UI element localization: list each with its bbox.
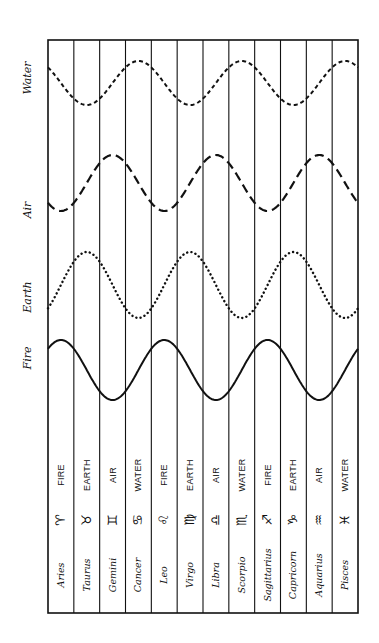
sign-element-text: AIR [314,467,324,483]
sign-name-text: Capricorn [287,551,298,599]
sign-element-text: EARTH [82,459,92,491]
sign-name-text: Gemini [107,558,118,592]
element-labels: WaterAirEarthFire [21,61,34,371]
sign-name-text: Sagittarius [262,548,273,601]
taurus-glyph-icon: ♉ [79,514,94,526]
fire-label: Fire [21,346,34,370]
capricorn-glyph-icon: ♑ [285,514,300,526]
sign-cell-pisces: WATER♓Pisces [337,458,352,591]
sign-name-text: Aries [55,562,66,588]
sagittarius-glyph-icon: ♐ [260,514,275,526]
leo-glyph-icon: ♌ [156,514,171,526]
sign-name-text: Scorpio [236,556,247,593]
sign-name-text: Taurus [81,558,92,591]
sign-cell-cancer: WATER♋Cancer [130,458,145,592]
sign-name-text: Cancer [132,556,143,592]
sign-cell-gemini: AIR♊Gemini [105,467,120,592]
sign-cell-libra: AIR♎Libra [208,467,223,589]
sign-cell-scorpio: WATER♏Scorpio [234,458,249,593]
virgo-glyph-icon: ♍ [182,514,197,526]
sign-cell-aquarius: AIR♒Aquarius [311,467,326,598]
cancer-glyph-icon: ♋ [130,514,145,526]
elements-wave-diagram: WaterAirEarthFire FIRE♈AriesEARTH♉Taurus… [0,0,379,643]
sign-element-text: AIR [211,467,221,483]
sign-element-text: FIRE [159,464,169,486]
sign-element-text: WATER [340,458,350,491]
sign-cell-virgo: EARTH♍Virgo [182,459,197,588]
sign-element-text: WATER [237,458,247,491]
pisces-glyph-icon: ♓ [337,514,352,526]
sign-name-text: Virgo [184,562,195,588]
sign-element-text: EARTH [185,459,195,491]
water-label: Water [21,61,34,95]
sign-name-text: Libra [210,562,221,589]
scorpio-glyph-icon: ♏ [234,514,249,526]
sign-cell-taurus: EARTH♉Taurus [79,459,94,591]
sign-columns [74,40,332,613]
earth-label: Earth [21,281,34,313]
sign-name-text: Aquarius [313,553,324,597]
sign-element-text: AIR [108,467,118,483]
sign-cell-sagittarius: FIRE♐Sagittarius [260,464,275,601]
gemini-glyph-icon: ♊ [105,514,120,526]
aquarius-glyph-icon: ♒ [311,514,326,526]
libra-glyph-icon: ♎ [208,514,223,526]
sign-element-text: EARTH [288,459,298,491]
sign-element-text: WATER [133,458,143,491]
sign-element-text: FIRE [263,464,273,486]
sign-cell-aries: FIRE♈Aries [53,464,68,588]
sign-cell-leo: FIRE♌Leo [156,464,171,585]
aries-glyph-icon: ♈ [53,514,68,526]
sign-name-text: Leo [158,566,169,585]
air-label: Air [21,201,34,219]
sign-element-text: FIRE [56,464,66,486]
sign-cell-capricorn: EARTH♑Capricorn [285,459,300,599]
sign-name-text: Pisces [339,560,350,591]
